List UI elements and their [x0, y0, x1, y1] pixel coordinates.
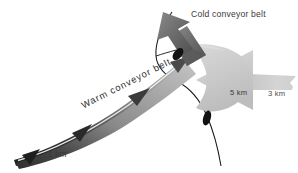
diagram-canvas: Cold conveyor belt Warm conveyor belt 1 … — [0, 0, 298, 173]
outflow-arrow — [190, 44, 296, 111]
altitude-label-3km: 3 km — [268, 90, 285, 98]
altitude-label-5km: 5 km — [230, 89, 247, 97]
warm-conveyor-belt-arrow — [14, 56, 196, 169]
altitude-label-1km: 1 km — [48, 151, 67, 159]
cold-conveyor-belt-label: Cold conveyor belt — [191, 10, 266, 19]
conveyor-belt-diagram — [0, 0, 298, 173]
